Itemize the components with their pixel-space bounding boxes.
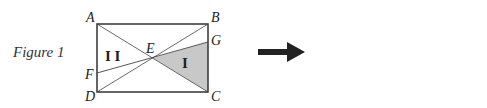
diagram-canvas: Figure 1 A B G E F D C I I I A B G E F D… [0, 0, 487, 108]
arrow-right-icon [258, 42, 305, 62]
vertex-label-B: B [211, 10, 220, 25]
vertex-label-A: A [85, 10, 95, 25]
region-label-II: I I [105, 48, 121, 64]
vertex-label-F: F [84, 67, 94, 82]
vertex-label-D: D [84, 89, 95, 104]
vertex-label-E: E [145, 41, 155, 56]
region-label-I: I [182, 55, 188, 71]
left-figure: A B G E F D C I I I [84, 10, 221, 104]
vertex-label-C: C [211, 89, 221, 104]
figure-caption: Figure 1 [12, 44, 65, 60]
vertex-label-G: G [211, 33, 221, 48]
